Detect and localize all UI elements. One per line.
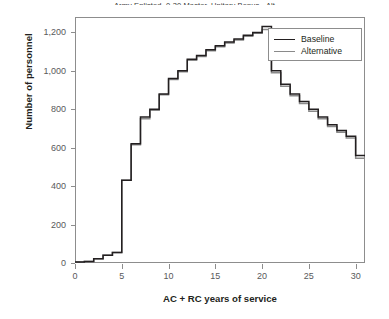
y-tick-label: 800 bbox=[51, 104, 66, 114]
x-tick-mark bbox=[75, 264, 76, 269]
y-tick-label: 0 bbox=[61, 258, 66, 268]
y-tick-label: 1,000 bbox=[43, 66, 66, 76]
x-tick-mark bbox=[309, 264, 310, 269]
x-tick-label: 0 bbox=[55, 271, 95, 281]
x-axis-label: AC + RC years of service bbox=[75, 293, 365, 304]
y-tick-label: 400 bbox=[51, 181, 66, 191]
legend-label-alternative: Alternative bbox=[301, 45, 342, 57]
x-tick-label: 10 bbox=[149, 271, 189, 281]
x-tick-label: 15 bbox=[195, 271, 235, 281]
chart-legend: Baseline Alternative bbox=[268, 28, 362, 61]
legend-item-alternative: Alternative bbox=[274, 45, 356, 57]
legend-item-baseline: Baseline bbox=[274, 33, 356, 45]
legend-label-baseline: Baseline bbox=[301, 33, 334, 45]
chart-title: Army Enlisted, 0-30 Master, Unitary Bonu… bbox=[114, 1, 275, 5]
x-tick-label: 25 bbox=[289, 271, 329, 281]
legend-swatch-baseline bbox=[274, 39, 295, 40]
x-tick-mark bbox=[122, 264, 123, 269]
x-tick-mark bbox=[356, 264, 357, 269]
y-tick-label: 600 bbox=[51, 143, 66, 153]
x-tick-label: 30 bbox=[336, 271, 376, 281]
chart-figure: Army Enlisted, 0-30 Master, Unitary Bonu… bbox=[0, 0, 389, 319]
y-tick-label: 200 bbox=[51, 220, 66, 230]
x-tick-label: 20 bbox=[242, 271, 282, 281]
legend-swatch-alternative bbox=[274, 51, 295, 52]
x-tick-label: 5 bbox=[102, 271, 142, 281]
x-tick-mark bbox=[262, 264, 263, 269]
y-tick-label: 1,200 bbox=[43, 27, 66, 37]
x-tick-mark bbox=[215, 264, 216, 269]
x-tick-mark bbox=[169, 264, 170, 269]
